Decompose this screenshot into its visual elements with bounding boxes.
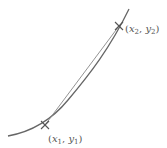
point-1-marker xyxy=(41,121,49,129)
convex-curve xyxy=(8,9,129,136)
paren-close: ) xyxy=(156,23,160,34)
diagram-canvas: (x1, y1) (x2, y2) xyxy=(0,0,167,148)
secant-chord xyxy=(45,26,119,125)
paren-close: ) xyxy=(79,133,83,144)
point-1-label: (x1, y1) xyxy=(48,133,83,146)
diagram-svg: (x1, y1) (x2, y2) xyxy=(0,0,167,148)
point-2-label: (x2, y2) xyxy=(125,23,160,36)
